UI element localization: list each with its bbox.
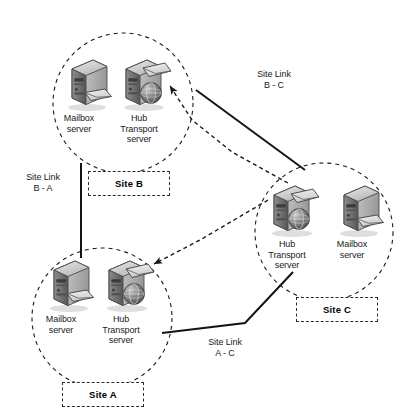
- site-link-label-b-a: Site Link B - A: [12, 172, 74, 194]
- mailbox-server-icon[interactable]: [340, 186, 384, 237]
- mail-flow-arrows: [154, 86, 288, 264]
- site-topology-diagram: Mailbox server Hub Transport server Site…: [0, 0, 417, 416]
- mailbox-server-icon[interactable]: [68, 60, 112, 111]
- site-box-label-site-c: Site C: [323, 304, 351, 315]
- hub-transport-server-icon[interactable]: [124, 60, 171, 111]
- server-label-site-a-hub: Hub Transport server: [94, 314, 148, 346]
- hub-transport-server-icon[interactable]: [107, 261, 154, 312]
- site-boundary-site-b: [53, 33, 193, 173]
- site-link-label-a-c: Site Link A - C: [194, 337, 256, 359]
- site-box-label-site-a: Site A: [89, 389, 117, 400]
- hub-transport-server-icon[interactable]: [272, 186, 319, 237]
- server-label-site-a-mailbox: Mailbox server: [35, 314, 87, 335]
- site-box-site-a[interactable]: Site A: [62, 382, 144, 407]
- server-label-site-b-hub: Hub Transport server: [112, 113, 166, 145]
- site-link-line-a-c: [162, 272, 293, 333]
- server-label-site-c-hub: Hub Transport server: [260, 239, 314, 271]
- site-link-label-b-c: Site Link B - C: [243, 69, 305, 91]
- site-box-site-b[interactable]: Site B: [88, 171, 170, 196]
- server-label-site-b-mailbox: Mailbox server: [53, 113, 105, 134]
- site-link-line-b-c: [196, 90, 305, 170]
- site-box-site-c[interactable]: Site C: [296, 297, 378, 322]
- mail-flow-arrow-c-to-b: [170, 86, 288, 183]
- site-box-label-site-b: Site B: [115, 178, 143, 189]
- server-label-site-c-mailbox: Mailbox server: [326, 239, 378, 260]
- mail-flow-arrow-c-to-a: [154, 200, 268, 264]
- mailbox-server-icon[interactable]: [50, 261, 94, 312]
